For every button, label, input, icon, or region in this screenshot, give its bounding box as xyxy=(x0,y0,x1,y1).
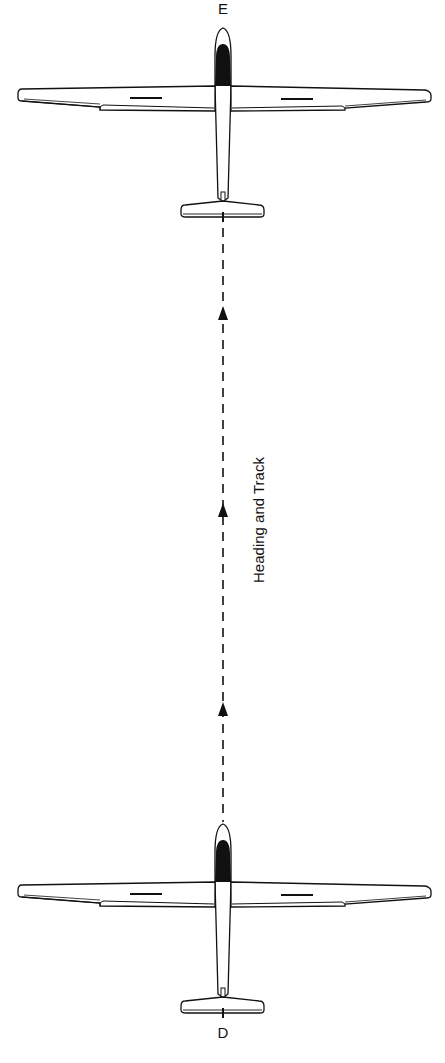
glider-top-icon xyxy=(18,28,431,222)
arrow-up-icon xyxy=(218,503,228,517)
glider-bottom-icon xyxy=(18,824,431,1018)
arrow-up-icon xyxy=(218,306,228,320)
heading-and-track-label: Heading and Track xyxy=(250,457,267,583)
clipped-caption xyxy=(0,1052,445,1063)
point-d-label: D xyxy=(218,1024,229,1041)
arrow-up-icon xyxy=(218,702,228,716)
track-line xyxy=(218,228,228,822)
diagram-canvas xyxy=(0,0,445,1063)
